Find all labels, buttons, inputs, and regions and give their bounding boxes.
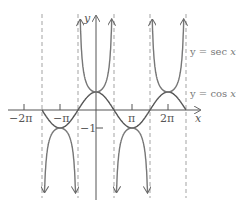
cos-curve-label: y = cos x (189, 88, 236, 99)
tick-label-neg-one: −1 (80, 122, 96, 135)
sec-curve-branch-3 (152, 20, 183, 92)
tick-label-neg-two-pi: −2π (9, 112, 32, 125)
tick-label-neg-pi: −π (53, 112, 69, 125)
x-axis-label: x (195, 112, 202, 125)
tick-label-two-pi: 2π (160, 112, 174, 125)
tick-label-pi: π (128, 112, 135, 125)
y-axis-label: y (83, 12, 91, 25)
asymptotes (42, 14, 186, 198)
sec-cos-graph: y x −2π −π π 2π −1 y = sec x y = cos x (0, 0, 236, 204)
sec-curve-branch-2 (117, 128, 148, 192)
sec-curve-label: y = sec x (189, 46, 236, 57)
sec-curve-branch-0 (45, 128, 76, 192)
